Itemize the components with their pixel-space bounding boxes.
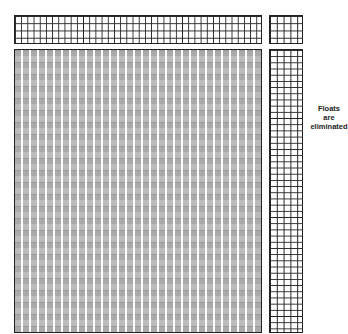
label-line-3: eliminated bbox=[310, 122, 348, 131]
floats-eliminated-label: Floats are eliminated bbox=[310, 104, 348, 131]
label-line-1: Floats bbox=[310, 104, 348, 113]
drawdown-pattern bbox=[14, 49, 262, 333]
tieup-grid bbox=[269, 15, 303, 44]
treadling-grid bbox=[269, 49, 303, 333]
threading-grid bbox=[14, 15, 262, 44]
label-line-2: are bbox=[310, 113, 348, 122]
